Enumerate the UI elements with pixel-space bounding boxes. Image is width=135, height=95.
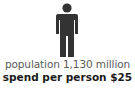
- population-text: population 1,130 million: [0, 58, 135, 70]
- person-icon: [54, 3, 80, 57]
- spend-per-person-text: spend per person $25: [0, 71, 135, 83]
